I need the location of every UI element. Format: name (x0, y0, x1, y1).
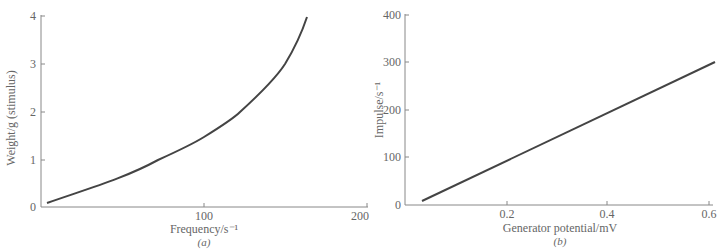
chart-a-xtick-200: 200 (351, 209, 369, 223)
chart-b-ytick-300: 300 (383, 55, 401, 69)
chart-a-ytick-3: 3 (30, 57, 36, 71)
chart-a-ytick-2: 2 (30, 105, 36, 119)
chart-a-ytick-1: 1 (30, 153, 36, 167)
chart-b-xtick-0-4: 0.4 (600, 207, 615, 221)
chart-a-x-ticks: 100 200 (195, 203, 369, 223)
chart-a: 0 1 2 3 4 100 200 Frequency/s⁻¹ (a) Weig… (4, 9, 369, 249)
chart-a-ytick-4: 4 (30, 9, 36, 23)
chart-a-curve (47, 17, 307, 203)
chart-a-y-ticks: 0 1 2 3 4 (30, 9, 45, 214)
chart-b-ytick-400: 400 (383, 8, 401, 22)
chart-a-x-label: Frequency/s⁻¹ (170, 222, 239, 236)
chart-b: 0 100 200 300 400 0.2 0.4 0.6 Generator … (372, 8, 717, 248)
chart-b-y-label: Impulse/s⁻¹ (372, 81, 386, 138)
chart-a-xtick-100: 100 (195, 209, 213, 223)
chart-b-x-ticks: 0.2 0.4 0.6 (500, 201, 717, 221)
figure: 0 1 2 3 4 100 200 Frequency/s⁻¹ (a) Weig… (0, 0, 725, 252)
chart-a-y-label: Weight/g (stimulus) (4, 70, 18, 165)
chart-b-caption: (b) (554, 235, 567, 248)
chart-b-xtick-0-6: 0.6 (702, 207, 717, 221)
chart-b-x-label: Generator potential/mV (503, 221, 618, 235)
chart-b-xtick-0-2: 0.2 (500, 207, 515, 221)
chart-a-caption: (a) (198, 236, 211, 249)
chart-a-ytick-0: 0 (30, 200, 36, 214)
chart-b-line (422, 62, 715, 201)
chart-b-ytick-100: 100 (383, 150, 401, 164)
chart-b-ytick-0: 0 (395, 198, 401, 212)
